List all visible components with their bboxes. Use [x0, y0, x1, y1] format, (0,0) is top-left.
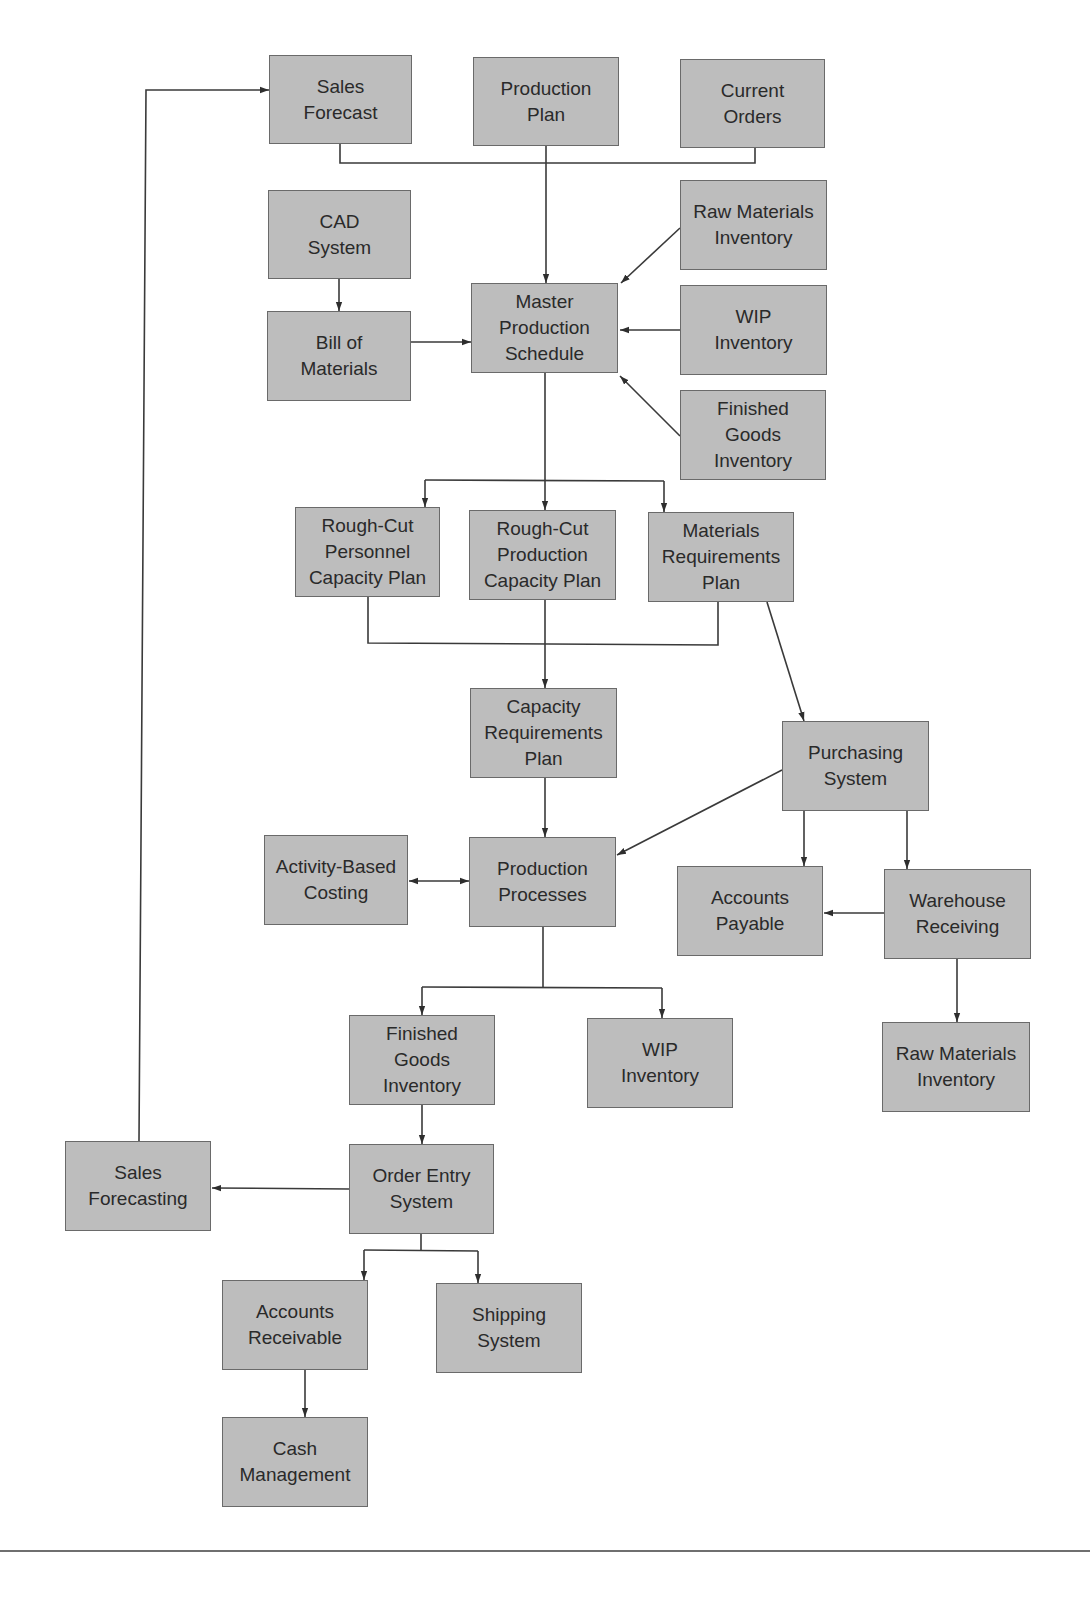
node-shipping-system: Shipping System	[436, 1283, 582, 1373]
node-label: Production	[497, 856, 588, 882]
node-label: Production	[497, 542, 588, 568]
node-label: Receivable	[248, 1325, 342, 1351]
node-label: Receiving	[916, 914, 999, 940]
node-label: Sales	[317, 74, 365, 100]
node-order-entry-system: Order Entry System	[349, 1144, 494, 1234]
node-label: Goods	[725, 422, 781, 448]
node-purchasing-system: Purchasing System	[782, 721, 929, 811]
node-label: Activity-Based	[276, 854, 396, 880]
node-label: Accounts	[256, 1299, 334, 1325]
node-sales-forecasting: Sales Forecasting	[65, 1141, 211, 1231]
edge-production-branch-bar	[422, 987, 662, 988]
node-label: WIP	[736, 304, 772, 330]
node-label: Payable	[716, 911, 785, 937]
node-label: Orders	[723, 104, 781, 130]
node-production-processes: Production Processes	[469, 837, 616, 927]
edge-order-entry-to-sales-forecasting	[212, 1188, 349, 1189]
node-rough-cut-personnel-capacity-plan: Rough-Cut Personnel Capacity Plan	[295, 507, 440, 597]
node-label: Forecasting	[88, 1186, 187, 1212]
node-label: Shipping	[472, 1302, 546, 1328]
node-label: Finished	[717, 396, 789, 422]
node-capacity-requirements-plan: Capacity Requirements Plan	[470, 688, 617, 778]
node-accounts-payable: Accounts Payable	[677, 866, 823, 956]
node-cad-system: CAD System	[268, 190, 411, 279]
node-production-plan: Production Plan	[473, 57, 619, 146]
node-raw-materials-inventory-bottom: Raw Materials Inventory	[882, 1022, 1030, 1112]
flowchart-canvas: Sales Forecast Production Plan Current O…	[0, 0, 1090, 1599]
node-label: Rough-Cut	[322, 513, 414, 539]
node-label: Capacity	[507, 694, 581, 720]
edge-purchasing-to-production	[617, 770, 782, 855]
edge-order-entry-branch-bar	[364, 1250, 478, 1251]
node-sales-forecast: Sales Forecast	[269, 55, 412, 144]
node-label: System	[477, 1328, 540, 1354]
node-label: CAD	[319, 209, 359, 235]
node-warehouse-receiving: Warehouse Receiving	[884, 869, 1031, 959]
edge-mrp-to-purchasing	[767, 602, 804, 721]
node-label: Raw Materials	[896, 1041, 1016, 1067]
node-finished-goods-inventory-top: Finished Goods Inventory	[680, 390, 826, 480]
node-label: Management	[240, 1462, 351, 1488]
node-label: Capacity Plan	[484, 568, 601, 594]
node-cash-management: Cash Management	[222, 1417, 368, 1507]
node-activity-based-costing: Activity-Based Costing	[264, 835, 408, 925]
node-label: Raw Materials	[693, 199, 813, 225]
node-label: Personnel	[325, 539, 411, 565]
node-label: Rough-Cut	[497, 516, 589, 542]
node-label: Order Entry	[372, 1163, 470, 1189]
node-materials-requirements-plan: Materials Requirements Plan	[648, 512, 794, 602]
node-label: Materials	[682, 518, 759, 544]
node-label: Inventory	[714, 225, 792, 251]
node-label: WIP	[642, 1037, 678, 1063]
node-label: Accounts	[711, 885, 789, 911]
node-accounts-receivable: Accounts Receivable	[222, 1280, 368, 1370]
node-label: Costing	[304, 880, 368, 906]
node-label: Warehouse	[909, 888, 1005, 914]
node-label: Bill of	[316, 330, 362, 356]
node-label: Plan	[524, 746, 562, 772]
node-label: System	[308, 235, 371, 261]
edge-mps-branch-bar	[425, 480, 664, 481]
node-bill-of-materials: Bill of Materials	[267, 311, 411, 401]
node-label: Requirements	[662, 544, 780, 570]
node-label: Finished	[386, 1021, 458, 1047]
node-label: Purchasing	[808, 740, 903, 766]
node-label: Goods	[394, 1047, 450, 1073]
node-wip-inventory-top: WIP Inventory	[680, 285, 827, 375]
node-label: Master	[515, 289, 573, 315]
node-label: Current	[721, 78, 784, 104]
node-label: System	[824, 766, 887, 792]
node-label: Inventory	[917, 1067, 995, 1093]
node-label: Cash	[273, 1436, 317, 1462]
node-label: Inventory	[714, 448, 792, 474]
node-label: Requirements	[484, 720, 602, 746]
edge-sales-forecasting-to-sales-forecast	[139, 90, 269, 1141]
node-label: Forecast	[304, 100, 378, 126]
node-raw-materials-inventory-top: Raw Materials Inventory	[680, 180, 827, 270]
edge-raw-materials-to-mps	[621, 228, 680, 283]
node-label: Inventory	[714, 330, 792, 356]
node-label: Capacity Plan	[309, 565, 426, 591]
edge-finished-goods-to-mps	[620, 376, 680, 436]
node-label: Inventory	[621, 1063, 699, 1089]
node-label: Materials	[300, 356, 377, 382]
node-label: Production	[501, 76, 592, 102]
node-label: Plan	[702, 570, 740, 596]
node-label: Schedule	[505, 341, 584, 367]
node-label: Processes	[498, 882, 587, 908]
node-master-production-schedule: Master Production Schedule	[471, 283, 618, 373]
node-wip-inventory-bottom: WIP Inventory	[587, 1018, 733, 1108]
node-current-orders: Current Orders	[680, 59, 825, 148]
node-label: Plan	[527, 102, 565, 128]
node-finished-goods-inventory-bottom: Finished Goods Inventory	[349, 1015, 495, 1105]
edge-plans-merge	[368, 597, 718, 645]
node-label: Sales	[114, 1160, 162, 1186]
node-label: System	[390, 1189, 453, 1215]
horizontal-rule	[0, 1550, 1090, 1552]
node-label: Production	[499, 315, 590, 341]
node-rough-cut-production-capacity-plan: Rough-Cut Production Capacity Plan	[469, 510, 616, 600]
node-label: Inventory	[383, 1073, 461, 1099]
